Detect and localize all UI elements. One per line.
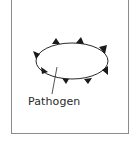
spike-icon: [52, 38, 60, 44]
label-leader-line: [52, 67, 57, 94]
pathogen-spikes: [33, 37, 108, 84]
pathogen-diagram: [0, 0, 130, 142]
spike-icon: [41, 67, 48, 74]
spike-icon: [102, 66, 108, 75]
spike-icon: [84, 78, 92, 84]
spike-icon: [33, 51, 40, 59]
pathogen-label: Pathogen: [28, 95, 80, 108]
pathogen-body: [36, 43, 108, 79]
spike-icon: [62, 78, 69, 84]
spike-icon: [76, 37, 84, 44]
